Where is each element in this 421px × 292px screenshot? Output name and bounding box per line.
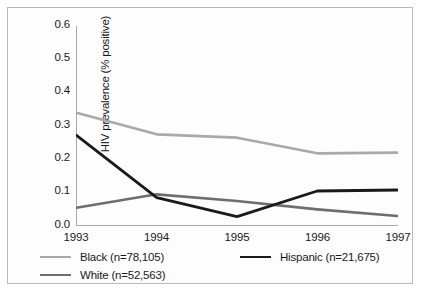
y-tick-label-0.3: 0.3 bbox=[36, 118, 70, 130]
figure: 0.6 0.5 0.4 0.3 0.2 0.1 0.0 1993 1994 19… bbox=[0, 0, 421, 292]
y-tick-label-0.2: 0.2 bbox=[36, 151, 70, 163]
x-tick-label-1995: 1995 bbox=[214, 231, 260, 243]
chart-legend: Black (n=78,105) White (n=52,563) Hispan… bbox=[34, 249, 406, 285]
y-tick-label-0.5: 0.5 bbox=[36, 51, 70, 63]
legend-item-black: Black (n=78,105) bbox=[40, 251, 164, 263]
x-tick-label-1997: 1997 bbox=[375, 231, 421, 243]
series-line-black bbox=[77, 113, 398, 154]
y-tick-label-0.4: 0.4 bbox=[36, 84, 70, 96]
x-tick-label-1993: 1993 bbox=[53, 231, 99, 243]
legend-swatch-black-icon bbox=[40, 256, 71, 258]
plot-area: 0.6 0.5 0.4 0.3 0.2 0.1 0.0 1993 1994 19… bbox=[76, 26, 398, 226]
legend-swatch-hispanic-icon bbox=[240, 256, 271, 258]
y-tick-label-0.0: 0.0 bbox=[36, 218, 70, 230]
chart-canvas bbox=[76, 26, 398, 226]
y-tick-label-0.1: 0.1 bbox=[36, 184, 70, 196]
legend-label-black: Black (n=78,105) bbox=[80, 251, 164, 263]
legend-item-white: White (n=52,563) bbox=[40, 269, 165, 281]
legend-swatch-white-icon bbox=[40, 274, 71, 276]
x-tick-label-1996: 1996 bbox=[295, 231, 341, 243]
series-line-white bbox=[77, 194, 398, 216]
legend-label-hispanic: Hispanic (n=21,675) bbox=[280, 251, 379, 263]
y-tick-label-0.6: 0.6 bbox=[36, 18, 70, 30]
legend-label-white: White (n=52,563) bbox=[80, 269, 165, 281]
x-tick-label-1994: 1994 bbox=[134, 231, 180, 243]
legend-item-hispanic: Hispanic (n=21,675) bbox=[240, 251, 379, 263]
series-line-hispanic bbox=[77, 135, 398, 216]
